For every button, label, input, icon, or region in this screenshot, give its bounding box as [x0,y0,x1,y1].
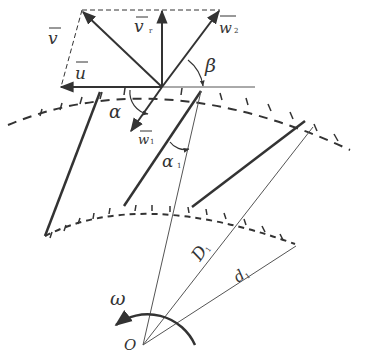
label-w2: w [219,19,232,37]
label-v: v [48,28,58,48]
label-w2-sub: 2 [234,27,238,35]
label-origin: O [124,336,136,354]
label-alpha1-sub: 1 [177,162,181,170]
label-omega: ω [110,287,126,309]
radius-d1 [143,246,296,345]
label-vr: v [134,16,144,36]
blades [45,91,305,236]
label-u: u [75,63,86,83]
radial-lines [143,91,313,345]
blade-2 [124,91,201,206]
radius-to-blade-2 [143,91,201,345]
label-vr-sub: r [149,27,153,35]
label-w1-sub: 1 [150,138,154,146]
alpha1-arc [170,142,189,150]
vector-w1 [131,87,162,131]
inner-circle-dashed [45,205,295,244]
label-beta: β [204,54,216,76]
label-alpha: α [109,101,121,122]
outer-circle-dashed [8,88,350,150]
impeller-velocity-diagram: v v r w 2 u β α w 1 α 1 D 1 d 1 ω O [0,0,373,354]
label-w1: w [138,132,149,147]
label-alpha1: α [162,151,174,171]
vector-v [83,12,162,87]
beta-arc [188,60,203,86]
blade-3 [192,121,305,207]
blade-1 [45,92,100,236]
